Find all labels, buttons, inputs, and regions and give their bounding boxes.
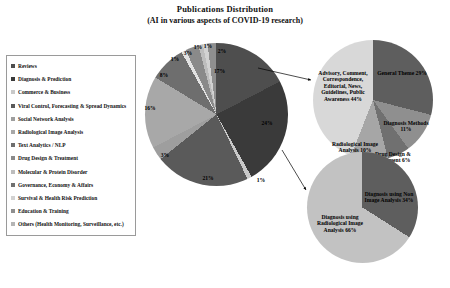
legend-swatch-icon [11, 196, 15, 200]
legend-item-label: Viral Control, Forecasting & Spread Dyna… [18, 100, 126, 112]
legend-item: Molecular & Protein Disorder [11, 166, 132, 179]
legend-swatch-icon [11, 156, 15, 160]
chart-title-line2: (AI in various aspects of COVID-19 resea… [0, 15, 450, 26]
pie-slice-label: 24% [261, 120, 272, 126]
leader-arrowhead [303, 187, 306, 190]
legend-item-label: Drug Design & Treatment [18, 152, 78, 164]
legend-item-label: Others (Health Monitoring, Surveillance,… [18, 218, 124, 230]
chart-title: Publications Distribution (AI in various… [0, 4, 450, 26]
legend-swatch-icon [11, 170, 15, 174]
legend-item-label: Text Analytics / NLP [18, 139, 66, 151]
legend-swatch-icon [11, 130, 15, 134]
legend-item: Others (Health Monitoring, Surveillance,… [11, 218, 132, 231]
pie-slice-label: 1% [194, 44, 202, 50]
pie-slice-label: 21% [202, 175, 213, 181]
legend-item: Education & Training [11, 205, 132, 218]
main-pie-chart [145, 43, 288, 186]
legend-item: Commerce & Business [11, 86, 132, 99]
legend-item-label: Radiological Image Analysis [18, 126, 83, 138]
legend-item: Survival & Health Risk Prediction [11, 192, 132, 205]
pie-slice-label: 3% [184, 50, 192, 56]
legend-item: Viral Control, Forecasting & Spread Dyna… [11, 100, 132, 113]
pie-slice-label: Diagnosis Methods 11% [380, 120, 432, 133]
legend-item-label: Reviews [18, 60, 37, 72]
legend-item: Governance, Economy & Affairs [11, 179, 132, 192]
legend-item-label: Governance, Economy & Affairs [18, 179, 93, 191]
pie-slice-label: 2% [218, 48, 226, 54]
pie-slice-label: 1% [204, 43, 212, 49]
leader-line [282, 150, 306, 190]
legend-item: Radiological Image Analysis [11, 126, 132, 139]
legend-item: Diagnosis & Prediction [11, 73, 132, 86]
legend-item: Reviews [11, 60, 132, 73]
pie-slice-label: Advisory, Comment, Correspondence, Edito… [317, 70, 369, 102]
pie-slice-label: 3% [161, 152, 169, 158]
legend-item-label: Social Network Analysis [18, 113, 74, 125]
pie-slice-label: 1% [257, 177, 265, 183]
legend-item-label: Survival & Health Risk Prediction [18, 192, 97, 204]
legend-swatch-icon [11, 143, 15, 147]
legend-item-label: Commerce & Business [18, 86, 70, 98]
legend-swatch-icon [11, 64, 15, 68]
legend-swatch-icon [11, 104, 15, 108]
pie-slice-label: 1% [171, 56, 179, 62]
pie-slice-label: 17% [214, 68, 225, 74]
legend-item: Text Analytics / NLP [11, 139, 132, 152]
pie-slice-label: Diagnosis using Radiological Image Analy… [314, 214, 366, 233]
pie-slice-label: 8% [160, 72, 168, 78]
legend-swatch-icon [11, 209, 15, 213]
legend-item-label: Molecular & Protein Disorder [18, 166, 87, 178]
pie-slice-label: 16% [144, 105, 155, 111]
legend-swatch-icon [11, 183, 15, 187]
pie-slice-label: General Theme 29% [376, 70, 428, 76]
chart-legend: ReviewsDiagnosis & PredictionCommerce & … [6, 55, 136, 236]
legend-swatch-icon [11, 77, 15, 81]
legend-swatch-icon [11, 90, 15, 94]
legend-swatch-icon [11, 222, 15, 226]
leader-arrowhead [308, 78, 311, 81]
chart-canvas: Publications Distribution (AI in various… [0, 0, 450, 288]
legend-swatch-icon [11, 117, 15, 121]
diagnosis-breakdown-pie [307, 152, 418, 263]
legend-item-label: Diagnosis & Prediction [18, 73, 71, 85]
legend-item: Drug Design & Treatment [11, 152, 132, 165]
pie-slice-label: Diagnosis using Non Image Analysis 34% [363, 191, 415, 204]
legend-item: Social Network Analysis [11, 113, 132, 126]
legend-item-label: Education & Training [18, 205, 69, 217]
chart-title-line1: Publications Distribution [0, 4, 450, 15]
